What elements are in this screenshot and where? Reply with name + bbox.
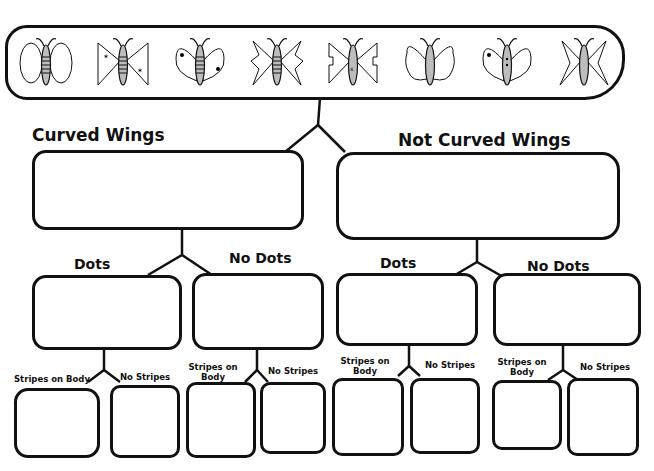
group-notcurved-dots (336, 273, 478, 346)
label-leaf-2: No Stripes (120, 372, 170, 382)
leaf-box-6 (410, 378, 480, 454)
group-curved-dots (32, 275, 182, 350)
label-leaf-4: No Stripes (268, 366, 318, 376)
group-curved-no-dots (192, 273, 324, 350)
group-not-curved-wings (336, 152, 620, 240)
label-leaf-7: Stripes on Body (497, 357, 547, 377)
butterfly-oval-stripes (18, 33, 74, 93)
leaf-box-8 (567, 378, 639, 456)
butterfly-notched-x: x (325, 33, 381, 93)
svg-text:✶: ✶ (103, 53, 109, 61)
butterfly-pointed-plain (556, 33, 612, 93)
group-notcurved-no-dots (493, 273, 641, 346)
label-leaf-8: No Stripes (580, 362, 630, 372)
label-notcurved-dots: Dots (380, 255, 416, 271)
group-all: ✶✶ x (5, 25, 625, 100)
leaf-box-5 (332, 378, 404, 456)
label-leaf-5: Stripes on Body (340, 356, 390, 376)
leaf-box-7 (492, 380, 562, 450)
butterfly-jagged-stripes (249, 33, 305, 93)
label-curved-no-dots: No Dots (229, 250, 291, 266)
leaf-box-4 (260, 382, 326, 454)
butterfly-curved-dot-body (479, 33, 535, 93)
svg-text:x: x (350, 65, 354, 72)
label-curved-dots: Dots (74, 256, 110, 272)
label-not-curved-wings: Not Curved Wings (398, 130, 571, 150)
label-leaf-1: Stripes on Body (14, 374, 90, 384)
svg-text:✶: ✶ (137, 67, 143, 75)
group-curved-wings (32, 150, 304, 230)
leaf-box-3 (186, 382, 256, 458)
leaf-box-2 (110, 385, 180, 458)
leaf-box-1 (14, 388, 100, 458)
label-curved-wings: Curved Wings (32, 125, 165, 145)
label-leaf-6: No Stripes (425, 360, 475, 370)
butterfly-ruffle-plain (402, 33, 458, 93)
label-leaf-3: Stripes on Body (188, 362, 238, 382)
label-notcurved-no-dots: No Dots (527, 258, 589, 274)
butterfly-triangle-star: ✶✶ (95, 33, 151, 93)
butterfly-curved-dot (172, 33, 228, 93)
